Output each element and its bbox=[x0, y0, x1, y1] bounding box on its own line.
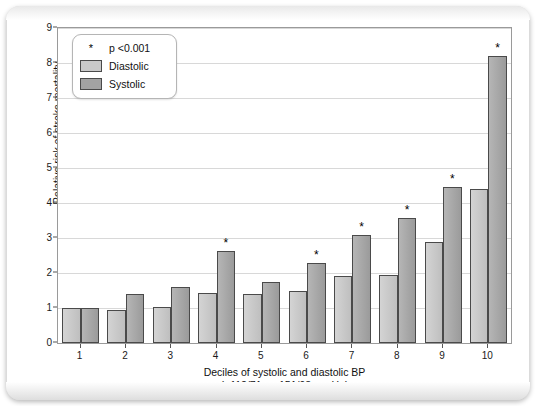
legend-label-diastolic: Diastolic bbox=[109, 60, 149, 72]
legend-note-label: p <0.001 bbox=[109, 42, 150, 54]
x-axis-tick-mark bbox=[487, 344, 488, 348]
y-axis-tick-mark bbox=[53, 272, 57, 273]
bar-systolic-decile-8 bbox=[398, 218, 417, 343]
x-axis-tick-mark bbox=[351, 344, 352, 348]
bar-diastolic-decile-4 bbox=[198, 293, 217, 343]
x-axis-tick-mark bbox=[80, 344, 81, 348]
x-axis-tick-mark bbox=[170, 344, 171, 348]
y-axis-tick-mark bbox=[53, 97, 57, 98]
significance-asterisk-icon: * bbox=[398, 204, 417, 216]
x-axis-tick-labels: 12345678910 bbox=[57, 350, 512, 364]
bar-group bbox=[243, 28, 280, 343]
bar-group: * bbox=[379, 28, 416, 343]
y-axis-tick-label: 6 bbox=[36, 127, 52, 138]
x-axis-label: Deciles of systolic and diastolic BP bbox=[57, 366, 512, 379]
bar-diastolic-decile-3 bbox=[153, 307, 172, 343]
x-axis-label-block: Deciles of systolic and diastolic BP (<1… bbox=[57, 366, 512, 392]
significance-asterisk-icon: * bbox=[217, 237, 236, 249]
bar-systolic-decile-6 bbox=[307, 263, 326, 343]
x-axis-label-sub: (<112/71 – ≥151/98 mmHg) bbox=[57, 379, 512, 392]
x-axis-tick-label: 1 bbox=[60, 350, 100, 361]
y-axis-tick-label: 3 bbox=[36, 232, 52, 243]
bar-group: * bbox=[470, 28, 507, 343]
y-axis-tick-mark bbox=[53, 27, 57, 28]
bar-systolic-decile-4 bbox=[217, 251, 236, 343]
significance-asterisk-icon: * bbox=[352, 221, 371, 233]
y-axis-tick-mark bbox=[53, 307, 57, 308]
x-axis-tick-label: 8 bbox=[377, 350, 417, 361]
x-axis-tick-label: 4 bbox=[196, 350, 236, 361]
significance-asterisk-icon: * bbox=[443, 173, 462, 185]
bar-systolic-decile-1 bbox=[81, 308, 100, 343]
x-axis-tick-label: 10 bbox=[467, 350, 507, 361]
legend: * p <0.001 Diastolic Systolic bbox=[72, 34, 177, 99]
legend-item-systolic: Systolic bbox=[80, 76, 169, 92]
x-axis-tick-mark bbox=[306, 344, 307, 348]
y-axis-tick-label: 4 bbox=[36, 197, 52, 208]
bar-group: * bbox=[289, 28, 326, 343]
bar-diastolic-decile-9 bbox=[425, 242, 444, 343]
legend-swatch-diastolic-icon bbox=[80, 60, 102, 72]
x-axis-tick-label: 7 bbox=[331, 350, 371, 361]
x-axis-tick-label: 3 bbox=[150, 350, 190, 361]
legend-item-diastolic: Diastolic bbox=[80, 58, 169, 74]
x-axis-tick-mark bbox=[216, 344, 217, 348]
bar-systolic-decile-10 bbox=[488, 56, 507, 343]
x-axis-tick-mark bbox=[442, 344, 443, 348]
x-axis-tick-label: 2 bbox=[105, 350, 145, 361]
y-axis-tick-label: 9 bbox=[36, 22, 52, 33]
y-axis-tick-mark bbox=[53, 202, 57, 203]
legend-note-row: * p <0.001 bbox=[80, 40, 169, 56]
y-axis-tick-label: 5 bbox=[36, 162, 52, 173]
bar-systolic-decile-7 bbox=[352, 235, 371, 344]
figure-frame: Relative risk of stroke mortality 012345… bbox=[6, 6, 530, 400]
y-axis-tick-label: 7 bbox=[36, 92, 52, 103]
y-axis-tick-label: 1 bbox=[36, 302, 52, 313]
bar-diastolic-decile-8 bbox=[379, 275, 398, 343]
y-axis-tick-mark bbox=[53, 237, 57, 238]
bar-chart: Relative risk of stroke mortality 012345… bbox=[6, 6, 530, 400]
x-axis-tick-mark bbox=[261, 344, 262, 348]
y-axis-tick-label: 8 bbox=[36, 57, 52, 68]
legend-swatch-systolic-icon bbox=[80, 78, 102, 90]
bar-group: * bbox=[198, 28, 235, 343]
bar-systolic-decile-5 bbox=[262, 282, 281, 343]
bar-diastolic-decile-7 bbox=[334, 276, 353, 343]
y-axis: Relative risk of stroke mortality 012345… bbox=[30, 27, 52, 344]
bar-systolic-decile-3 bbox=[171, 287, 190, 343]
legend-label-systolic: Systolic bbox=[109, 78, 145, 90]
bar-diastolic-decile-1 bbox=[62, 308, 81, 343]
bar-group: * bbox=[334, 28, 371, 343]
bar-diastolic-decile-5 bbox=[243, 294, 262, 343]
bar-systolic-decile-9 bbox=[443, 187, 462, 343]
significance-asterisk-icon: * bbox=[307, 249, 326, 261]
y-axis-tick-label: 2 bbox=[36, 267, 52, 278]
x-axis-tick-mark bbox=[397, 344, 398, 348]
y-axis-tick-mark bbox=[53, 167, 57, 168]
x-axis-tick-label: 9 bbox=[422, 350, 462, 361]
bar-diastolic-decile-6 bbox=[289, 291, 308, 344]
x-axis-tick-mark bbox=[125, 344, 126, 348]
bar-diastolic-decile-10 bbox=[470, 189, 489, 343]
y-axis-tick-mark bbox=[53, 62, 57, 63]
bar-group: * bbox=[425, 28, 462, 343]
bar-systolic-decile-2 bbox=[126, 294, 145, 343]
y-axis-tick-mark bbox=[53, 132, 57, 133]
y-axis-tick-mark bbox=[53, 342, 57, 343]
asterisk-icon: * bbox=[80, 42, 102, 54]
x-axis-tick-label: 5 bbox=[241, 350, 281, 361]
y-axis-tick-label: 0 bbox=[36, 337, 52, 348]
significance-asterisk-icon: * bbox=[488, 42, 507, 54]
bar-diastolic-decile-2 bbox=[107, 310, 126, 343]
x-axis-tick-label: 6 bbox=[286, 350, 326, 361]
